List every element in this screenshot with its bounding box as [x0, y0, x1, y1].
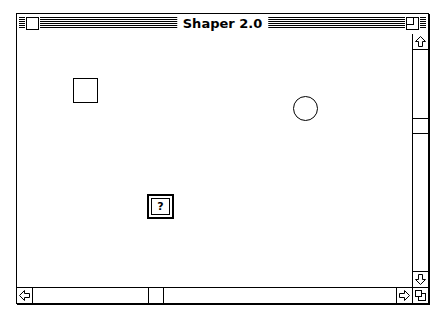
arrow-down-icon[interactable]: [413, 271, 428, 287]
arrow-right-icon[interactable]: [396, 288, 412, 303]
unknown-shape-box[interactable]: ?: [147, 194, 174, 219]
arrow-up-icon[interactable]: [413, 34, 428, 50]
title-bar[interactable]: Shaper 2.0: [17, 14, 428, 35]
canvas-area[interactable]: ?: [17, 34, 412, 287]
vertical-scroll-thumb[interactable]: [413, 118, 428, 134]
vertical-scrollbar[interactable]: [412, 34, 428, 287]
circle-shape[interactable]: [293, 96, 318, 121]
arrow-left-icon[interactable]: [17, 288, 33, 303]
grow-box-icon[interactable]: [412, 287, 428, 303]
horizontal-scrollbar[interactable]: [17, 287, 412, 303]
question-mark-label: ?: [151, 198, 170, 215]
close-box-icon[interactable]: [26, 17, 39, 30]
square-shape[interactable]: [73, 78, 98, 103]
horizontal-scroll-thumb[interactable]: [148, 288, 164, 303]
vertical-scroll-track[interactable]: [413, 50, 428, 271]
zoom-box-icon[interactable]: [406, 17, 419, 30]
window-title: Shaper 2.0: [177, 14, 268, 33]
shaper-window: Shaper 2.0 ?: [16, 13, 429, 304]
horizontal-scroll-track[interactable]: [33, 288, 396, 303]
